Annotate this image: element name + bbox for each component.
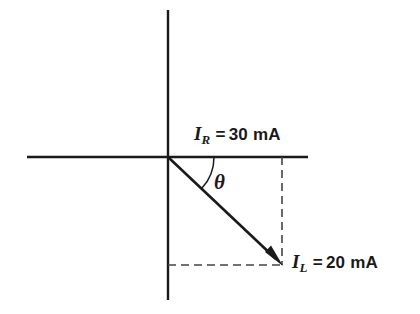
inductive-current-unit: mA xyxy=(350,253,378,272)
resistive-current-unit: mA xyxy=(253,125,281,144)
inductive-current-label: IL=20mA xyxy=(292,252,378,274)
resistive-current-value: 30 xyxy=(229,125,248,144)
resistive-current-label: IR=30mA xyxy=(194,124,281,146)
inductive-current-equals: = xyxy=(313,253,323,272)
inductive-current-symbol: I xyxy=(292,251,300,272)
phase-angle-label: θ xyxy=(214,172,225,193)
resultant-current-phasor xyxy=(168,157,283,266)
phasor-diagram-figure: IR=30mA IL=20mA θ xyxy=(0,0,420,314)
resistive-current-symbol: I xyxy=(194,123,202,144)
angle-arc xyxy=(202,157,214,189)
inductive-current-subscript: L xyxy=(300,260,308,275)
resistive-current-subscript: R xyxy=(202,132,211,147)
resistive-current-equals: = xyxy=(215,125,225,144)
phasor-arrowhead xyxy=(265,246,283,267)
inductive-current-value: 20 xyxy=(326,253,345,272)
